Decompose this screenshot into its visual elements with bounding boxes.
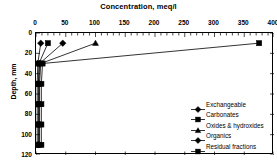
y-tick-label: 0 [10,29,32,36]
data-point-square [39,81,44,86]
y-tick-label: 40 [10,69,32,76]
y-axis-label: Depth, mm [10,47,17,117]
y-tick-label: 60 [10,90,32,97]
legend-marker-triangle-icon [190,121,206,130]
x-tick-label: 100 [89,19,100,26]
y-tick-label: 80 [10,110,32,117]
series-oxides-hydroxides [37,40,99,147]
legend-label: Oxides & hydroxides [206,121,264,130]
series-line [39,43,63,145]
y-tick-label: 120 [10,151,32,158]
y-tick-label: 20 [10,49,32,56]
legend-marker-square-icon [190,110,206,119]
legend-marker-diamond-icon [190,131,206,140]
x-tick-label: 0 [33,19,37,26]
legend-label: Residual fractions [206,142,256,151]
data-point-square [39,122,44,127]
concentration-depth-chart: Concentration, meq/l Depth, mm 050100150… [0,0,277,167]
data-point-square [257,41,262,46]
legend-marker-diamond-icon [190,100,206,109]
data-point-square [39,142,44,147]
legend-item[interactable]: Oxides & hydroxides [190,120,272,131]
data-point-square [39,102,44,107]
data-point-square [45,41,50,46]
chart-legend: ExchangeableCarbonatesOxides & hydroxide… [190,99,272,152]
data-point-diamond [38,40,45,47]
legend-label: Organics [206,131,231,140]
x-tick-label: 400 [268,19,277,26]
legend-item[interactable]: Organics [190,131,272,142]
data-point-triangle [93,40,99,45]
legend-label: Carbonates [206,110,239,119]
x-tick-label: 250 [178,19,189,26]
x-tick-label: 200 [149,19,160,26]
legend-item[interactable]: Carbonates [190,110,272,121]
x-tick-label: 300 [208,19,219,26]
y-tick-label: 100 [10,130,32,137]
series-line [40,43,96,145]
x-tick-label: 150 [119,19,130,26]
legend-item[interactable]: Residual fractions [190,141,272,152]
series-carbonates [36,41,51,148]
data-point-square [196,149,201,154]
legend-item[interactable]: Exchangeable [190,99,272,110]
legend-label: Exchangeable [206,100,246,109]
chart-title: Concentration, meq/l [0,2,277,11]
data-point-square [40,61,45,66]
x-tick-label: 50 [61,19,68,26]
series-exchangeable [36,40,44,148]
x-tick-label: 350 [238,19,249,26]
legend-marker-square-icon [190,142,206,151]
